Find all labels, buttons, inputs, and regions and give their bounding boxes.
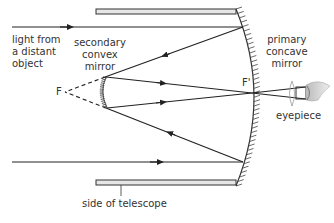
secondary-convex-mirror [102,77,107,108]
light-source-label: light from a distant object [12,34,61,70]
telescope-side-label: side of telescope [82,198,167,210]
primary-concave-mirror [236,7,260,186]
telescope-top-wall [96,9,236,14]
eyepiece-label: eyepiece [276,110,321,122]
telescope-bottom-wall [96,180,236,185]
construction-lines-to-f [65,77,106,108]
focal-point-f-label: F [56,86,62,98]
reflected-ray-bottom [106,108,243,162]
secondary-mirror-label: secondary convex mirror [74,37,126,73]
primary-mirror-label: primary concave mirror [266,34,308,70]
eye-icon [306,82,330,101]
converging-ray-bottom [107,87,306,108]
focal-point-f-prime-label: F' [242,77,251,89]
eyepiece-lens [290,81,307,106]
converging-ray-top [106,77,306,99]
